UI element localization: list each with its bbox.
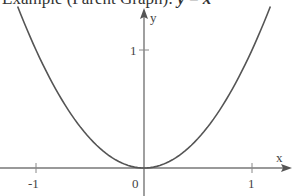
y-axis-label: y xyxy=(150,10,157,25)
tick-label-neg1: -1 xyxy=(28,176,39,191)
tick-label-pos1: 1 xyxy=(248,176,255,191)
tick-label-zero: 0 xyxy=(132,176,139,191)
x-axis-label: x xyxy=(276,150,283,165)
tick-label-y1: 1 xyxy=(130,43,137,58)
plot-area: -1 0 1 1 y x xyxy=(0,0,294,196)
